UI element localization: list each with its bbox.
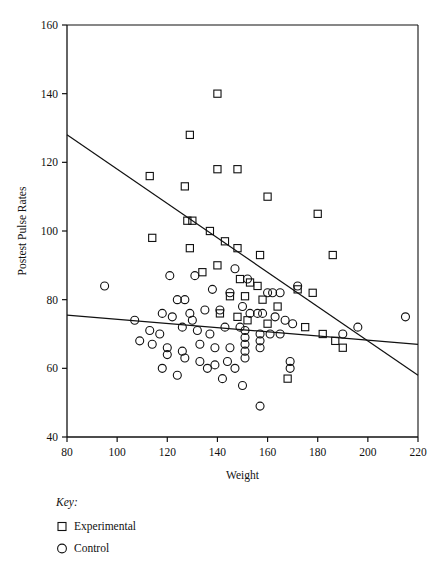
data-point-control — [146, 327, 154, 335]
data-point-control — [239, 382, 247, 390]
data-point-experimental — [234, 245, 241, 252]
data-point-experimental — [264, 320, 271, 327]
y-tick-label: 80 — [47, 294, 59, 306]
legend-entry-label: Control — [74, 542, 109, 554]
data-point-experimental — [184, 217, 191, 224]
data-point-control — [148, 340, 156, 348]
x-axis-title: Weight — [226, 469, 260, 482]
data-point-control — [401, 313, 409, 321]
data-point-control — [181, 354, 189, 362]
data-point-control — [276, 330, 284, 338]
data-point-control — [188, 316, 196, 324]
data-point-experimental — [214, 262, 221, 269]
data-point-control — [269, 289, 277, 297]
legend-title: Key: — [55, 496, 78, 509]
data-point-control — [354, 323, 362, 331]
data-point-experimental — [264, 193, 271, 200]
x-tick-label: 220 — [409, 446, 427, 458]
x-tick-label: 140 — [209, 446, 227, 458]
data-point-control — [231, 265, 239, 273]
data-point-experimental — [199, 269, 206, 276]
data-point-control — [226, 344, 234, 352]
scatter-plot-figure: 4060801001201401608010012014016018020022… — [0, 0, 447, 578]
data-point-experimental — [254, 282, 261, 289]
data-point-experimental — [214, 166, 221, 173]
data-point-control — [158, 309, 166, 317]
y-tick-label: 120 — [41, 156, 59, 168]
data-point-experimental — [339, 344, 346, 351]
data-point-experimental — [329, 251, 336, 258]
cropped-caption-below — [0, 566, 447, 578]
data-point-control — [289, 320, 297, 328]
data-point-experimental — [309, 289, 316, 296]
y-tick-label: 100 — [41, 225, 59, 237]
data-point-control — [158, 364, 166, 372]
data-point-experimental — [186, 245, 193, 252]
data-point-control — [181, 296, 189, 304]
data-point-control — [223, 357, 231, 365]
data-point-control — [281, 316, 289, 324]
x-tick-label: 120 — [159, 446, 177, 458]
data-point-experimental — [234, 166, 241, 173]
data-point-experimental — [314, 210, 321, 217]
y-tick-label: 60 — [47, 362, 59, 374]
data-point-control — [166, 272, 174, 280]
series-experimental — [146, 90, 346, 382]
x-tick-label: 80 — [61, 446, 73, 458]
data-point-control — [256, 402, 264, 410]
data-point-control — [266, 330, 274, 338]
trend-line — [67, 135, 418, 375]
data-point-experimental — [274, 303, 281, 310]
data-point-experimental — [256, 251, 263, 258]
legend-entry-label: Experimental — [74, 520, 136, 533]
data-point-control — [208, 285, 216, 293]
data-point-control — [231, 364, 239, 372]
data-point-experimental — [214, 90, 221, 97]
data-point-control — [339, 330, 347, 338]
x-tick-label: 160 — [259, 446, 277, 458]
data-point-experimental — [241, 293, 248, 300]
data-point-control — [206, 330, 214, 338]
legend-marker-square — [58, 523, 66, 531]
plot-canvas: 4060801001201401608010012014016018020022… — [0, 0, 447, 578]
data-point-control — [168, 313, 176, 321]
data-point-control — [173, 371, 181, 379]
data-point-control — [276, 289, 284, 297]
data-point-control — [221, 323, 229, 331]
data-point-control — [259, 309, 267, 317]
data-point-control — [101, 282, 109, 290]
data-point-control — [196, 357, 204, 365]
data-point-control — [173, 296, 181, 304]
data-point-control — [156, 330, 164, 338]
x-tick-label: 200 — [359, 446, 377, 458]
data-point-experimental — [149, 234, 156, 241]
data-point-control — [218, 375, 226, 383]
data-point-experimental — [146, 172, 153, 179]
y-tick-label: 160 — [41, 19, 59, 31]
x-tick-label: 180 — [309, 446, 327, 458]
x-tick-label: 100 — [109, 446, 127, 458]
data-point-control — [191, 272, 199, 280]
data-point-control — [136, 337, 144, 345]
y-tick-label: 40 — [47, 431, 59, 443]
data-point-experimental — [332, 337, 339, 344]
data-point-control — [196, 340, 204, 348]
y-tick-label: 140 — [41, 88, 59, 100]
data-point-control — [201, 306, 209, 314]
data-point-experimental — [236, 275, 243, 282]
data-point-experimental — [234, 313, 241, 320]
legend-marker-circle — [58, 544, 67, 553]
data-point-experimental — [259, 296, 266, 303]
data-point-experimental — [302, 324, 309, 331]
y-axis-title: Postest Pulse Rates — [16, 186, 28, 275]
data-point-control — [239, 303, 247, 311]
data-point-control — [211, 361, 219, 369]
data-point-experimental — [181, 183, 188, 190]
data-point-control — [203, 364, 211, 372]
data-point-control — [193, 327, 201, 335]
data-point-experimental — [284, 375, 291, 382]
data-point-control — [211, 344, 219, 352]
data-point-control — [271, 313, 279, 321]
data-point-experimental — [186, 131, 193, 138]
